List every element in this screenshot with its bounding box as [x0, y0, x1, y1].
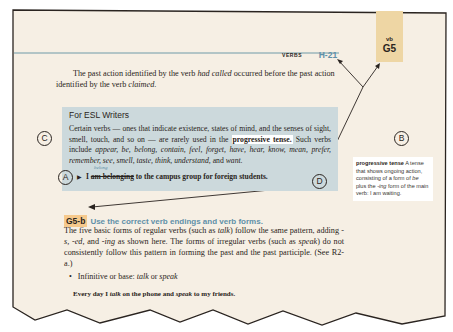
bullet-icon: • [69, 272, 72, 281]
highlighted-term: progressive tense. [232, 135, 293, 144]
page-number: H-21 [319, 50, 337, 60]
glossary-definition: progressive tense A tense that shows ong… [353, 157, 433, 201]
chapter-tab: vb G5 [376, 11, 403, 62]
callout-a: A [58, 170, 73, 185]
running-head: VERBS H-21 [282, 45, 337, 63]
handwritten-correction: belong [94, 165, 108, 170]
callout-c: C [37, 131, 52, 146]
tab-code: G5 [376, 43, 403, 54]
callout-d: D [312, 174, 327, 189]
bullet-item: •Infinitive or base: talk or speak [69, 272, 178, 281]
esl-example-sentence: I am belonging to the campus group for f… [86, 172, 268, 181]
esl-box-title: For ESL Writers [69, 110, 129, 120]
section-paragraph: The five basic forms of regular verbs (s… [64, 225, 344, 269]
tab-subtitle: vb [376, 36, 403, 43]
example-arrow-icon: ▶ [77, 173, 82, 180]
intro-paragraph: The past action identified by the verb h… [56, 68, 341, 90]
annotated-textbook-page: vb G5 VERBS H-21 The past action identif… [0, 0, 453, 332]
callout-b: B [394, 131, 409, 146]
running-head-section: VERBS [282, 52, 302, 58]
example-sentence: Every day I talk on the phone and speak … [73, 290, 235, 298]
esl-box-body: Certain verbs — ones that indicate exist… [69, 124, 331, 166]
